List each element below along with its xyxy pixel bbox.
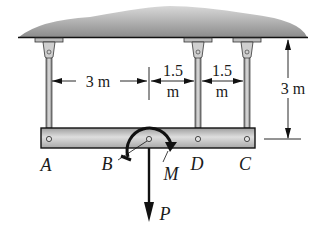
pin-c <box>244 136 249 141</box>
hanger-rod-c <box>233 38 261 128</box>
beam <box>41 128 255 148</box>
dimension-label-height: 3 m <box>281 80 306 97</box>
dimension-label-d-c-bottom: m <box>216 83 229 100</box>
dimension-label-d-c-top: 1.5 <box>212 62 232 79</box>
dimension-label-a-b: 3 m <box>86 73 111 90</box>
leader-m <box>163 151 168 162</box>
dimension-label-b-d-top: 1.5 <box>163 62 183 79</box>
point-label-c: C <box>239 154 252 174</box>
point-label-a: A <box>40 155 53 175</box>
force-label: P <box>159 204 171 224</box>
point-label-d: D <box>190 154 204 174</box>
pin-d <box>195 136 200 141</box>
beam-hanger-diagram: 3 m 1.5 m 1.5 m 3 m A B D C M P <box>0 0 323 234</box>
hanger-rod-d <box>184 38 212 128</box>
pin-b <box>146 136 151 141</box>
pin-a <box>46 136 51 141</box>
force-p-arrow-icon <box>144 148 154 222</box>
point-label-b: B <box>102 154 113 174</box>
moment-label: M <box>163 164 180 184</box>
ceiling-support <box>18 6 308 38</box>
dimension-label-b-d-bottom: m <box>167 83 180 100</box>
